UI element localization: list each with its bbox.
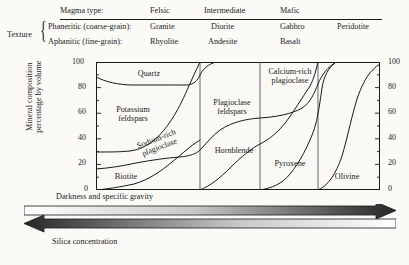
silica-gradient-arrow: [24, 215, 396, 232]
label-potassium-feldspars: Potassium feldspars: [100, 105, 166, 123]
y-axis-right-ticks: [375, 62, 380, 190]
magma-type-intermediate: Intermediate: [204, 7, 245, 15]
y-tick-left-40: 40: [78, 134, 86, 142]
y-tick-left-80: 80: [78, 83, 86, 91]
aphanitic-label: Aphanitic (fine-grain):: [48, 38, 122, 46]
label-potassium-feldspars-line2: feldspars: [100, 114, 166, 123]
y-tick-right-100: 100: [388, 58, 400, 66]
rock-rhyolite: Rhyolite: [150, 38, 178, 46]
label-plagioclase-feldspars: Plagioclase feldspars: [204, 98, 260, 116]
y-tick-left-100: 100: [72, 58, 84, 66]
darkness-gradient-arrow: [24, 204, 396, 219]
label-plagioclase-feldspars-line2: feldspars: [204, 107, 260, 116]
y-axis-title: Mineral composition percentage by volume: [26, 32, 43, 162]
rock-granite: Granite: [150, 23, 175, 31]
label-hornblende: Hornblende: [206, 146, 262, 155]
magma-type-felsic: Felsic: [150, 7, 170, 15]
silica-arrow-label: Silica concentration: [52, 238, 117, 246]
rock-diorite: Diorite: [211, 23, 234, 31]
rock-basalt: Basalt: [280, 38, 300, 46]
composition-curves: [96, 62, 380, 190]
label-calcium-rich-plagioclase-line2: plagioclase: [262, 76, 318, 85]
y-axis-title-line2: percentage by volume: [36, 32, 44, 162]
magma-type-label: Magma type:: [60, 7, 103, 15]
y-tick-left-60: 60: [78, 108, 86, 116]
y-axis-left-ticks: [96, 62, 101, 190]
mineral-composition-plot: Quartz Potassium feldspars Sodium-rich p…: [96, 62, 380, 190]
rock-peridotite: Peridotite: [337, 23, 369, 31]
rock-gabbro: Gabbro: [280, 23, 305, 31]
phaneritic-label: Phaneritic (coarse-grain):: [48, 23, 131, 31]
y-tick-right-20: 20: [388, 159, 396, 167]
header-divider-rule: [60, 19, 382, 20]
darkness-arrow-label: Darkness and specific gravity: [56, 193, 153, 201]
y-tick-right-0: 0: [388, 185, 392, 193]
y-axis-title-line1: Mineral composition: [26, 32, 34, 162]
label-quartz: Quartz: [122, 69, 176, 78]
label-potassium-feldspars-line1: Potassium: [100, 105, 166, 114]
label-olivine: Olivine: [326, 172, 368, 181]
label-biotite: Biotite: [104, 172, 148, 181]
label-calcium-rich-plagioclase-line1: Calcium-rich: [262, 67, 318, 76]
y-tick-left-20: 20: [78, 159, 86, 167]
label-calcium-rich-plagioclase: Calcium-rich plagioclase: [262, 67, 318, 85]
y-tick-right-40: 40: [388, 134, 396, 142]
label-plagioclase-feldspars-line1: Plagioclase: [204, 98, 260, 107]
magma-type-mafic: Mafic: [280, 7, 300, 15]
label-pyroxene: Pyroxene: [266, 159, 314, 168]
igneous-rock-classification-diagram: Magma type: Felsic Intermediate Mafic Te…: [0, 0, 409, 265]
y-tick-right-60: 60: [388, 108, 396, 116]
rock-andesite: Andesite: [208, 38, 237, 46]
y-tick-right-80: 80: [388, 83, 396, 91]
